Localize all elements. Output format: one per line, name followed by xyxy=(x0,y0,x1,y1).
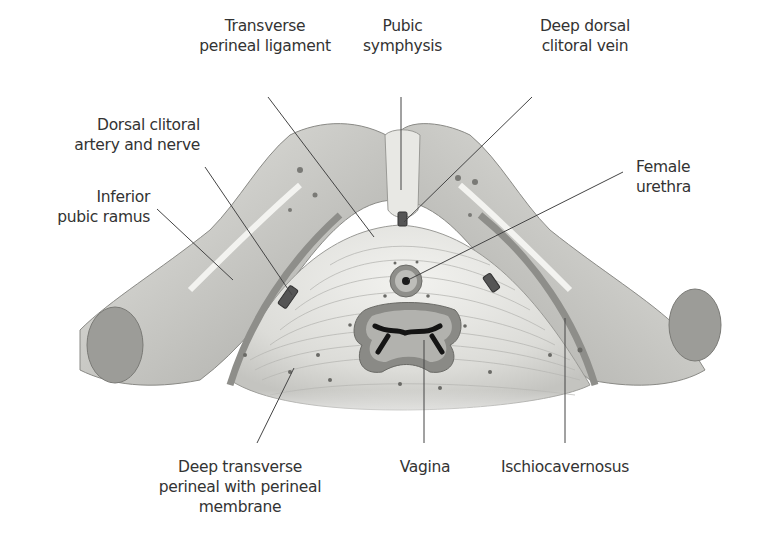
pubic-symphysis xyxy=(385,130,420,218)
label-dorsal-clitoral-artery-nerve: Dorsal clitoral artery and nerve xyxy=(40,115,200,155)
label-ischiocavernosus: Ischiocavernosus xyxy=(485,457,645,477)
label-inferior-pubic-ramus: Inferior pubic ramus xyxy=(40,187,150,227)
label-deep-transverse-perineal: Deep transverse perineal with perineal m… xyxy=(140,457,340,517)
label-female-urethra: Female urethra xyxy=(636,157,736,197)
label-transverse-perineal-ligament: Transverse perineal ligament xyxy=(170,16,360,56)
vagina xyxy=(354,303,461,373)
label-deep-dorsal-clitoral-vein: Deep dorsal clitoral vein xyxy=(510,16,660,56)
label-vagina: Vagina xyxy=(380,457,470,477)
deep-dorsal-clitoral-vein xyxy=(398,212,407,226)
label-pubic-symphysis: Pubic symphysis xyxy=(355,16,450,56)
urethra xyxy=(390,265,422,297)
anatomy-figure: Transverse perineal ligament Pubic symph… xyxy=(0,0,759,559)
